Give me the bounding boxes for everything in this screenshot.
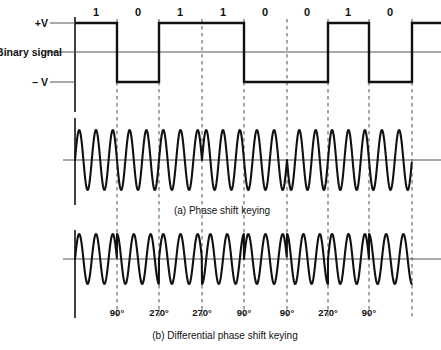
bit-label: 0 — [387, 6, 393, 18]
caption-b: (b) Differential phase shift keying — [152, 330, 297, 341]
bit-label: 0 — [262, 6, 268, 18]
phase-shift-label: 90° — [280, 307, 294, 318]
bit-label: 1 — [177, 6, 183, 18]
waveform-canvas — [0, 0, 441, 350]
bit-label: 0 — [304, 6, 310, 18]
phase-shift-label: 270° — [192, 307, 212, 318]
caption-a: (a) Phase shift keying — [174, 205, 270, 216]
axis-label-minus-v: – V — [32, 76, 48, 88]
axis-label-plus-v: +V — [35, 17, 48, 29]
phase-shift-label: 90° — [110, 307, 124, 318]
bit-label: 1 — [93, 6, 99, 18]
phase-shift-label: 90° — [237, 307, 251, 318]
phase-shift-label: 90° — [362, 307, 376, 318]
axis-label-binary-signal: Binary signal — [0, 46, 62, 58]
bit-label: 0 — [135, 6, 141, 18]
bit-label: 1 — [345, 6, 351, 18]
phase-shift-label: 270° — [318, 307, 338, 318]
psk-dpsk-figure: +V Binary signal – V 10110010 90°270°270… — [0, 0, 441, 350]
phase-shift-label: 270° — [149, 307, 169, 318]
bit-label: 1 — [220, 6, 226, 18]
